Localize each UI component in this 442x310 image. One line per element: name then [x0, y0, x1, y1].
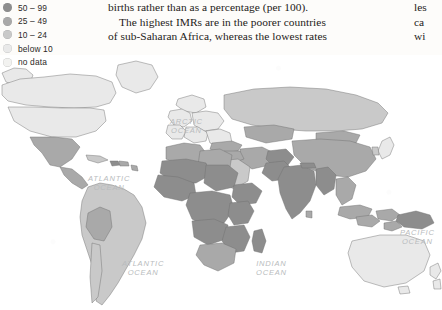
circle-swatch-icon [3, 3, 12, 12]
body-text-line: of sub-Saharan Africa, whereas the lowes… [108, 29, 366, 44]
world-map-svg: .b10{fill:#e9e9e9;stroke:#6f6f6f;stroke-… [0, 55, 442, 310]
scanned-page: .b10{fill:#e9e9e9;stroke:#6f6f6f;stroke-… [0, 0, 442, 310]
body-text-line: births rather than as a percentage (per … [108, 0, 366, 15]
legend-item-label: below 10 [18, 44, 53, 54]
legend-item: no data [3, 55, 99, 69]
legend-item: 50 – 99 [3, 1, 99, 15]
legend-item-label: no data [18, 57, 47, 67]
legend-item-label: 50 – 99 [18, 3, 47, 13]
right-text-line: les [404, 0, 442, 15]
body-text-column: births rather than as a percentage (per … [108, 0, 366, 44]
legend-item: 25 – 49 [3, 15, 99, 29]
map-legend: 50 – 99 25 – 49 10 – 24 below 10 no data [3, 1, 99, 69]
legend-item-label: 10 – 24 [18, 30, 47, 40]
legend-item: 10 – 24 [3, 28, 99, 42]
right-text-line: ca [404, 15, 442, 30]
circle-swatch-icon [3, 44, 12, 53]
circle-swatch-icon [3, 17, 12, 26]
right-text-line: wi [404, 29, 442, 44]
right-text-column: les ca wi [404, 0, 442, 44]
circle-swatch-icon [3, 58, 12, 67]
legend-item: below 10 [3, 42, 99, 56]
circle-swatch-icon [3, 30, 12, 39]
body-text-line: The highest IMRs are in the poorer count… [108, 15, 366, 30]
world-map: .b10{fill:#e9e9e9;stroke:#6f6f6f;stroke-… [0, 55, 442, 310]
legend-item-label: 25 – 49 [18, 16, 47, 26]
